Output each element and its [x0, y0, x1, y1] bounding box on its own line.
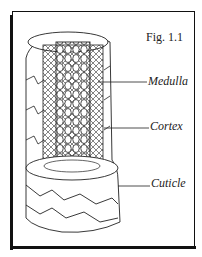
- figure-caption: Fig. 1.1: [146, 30, 183, 45]
- label-cuticle: Cuticle: [151, 176, 186, 191]
- label-medulla: Medulla: [148, 74, 188, 89]
- medulla-core: [56, 42, 90, 164]
- label-cortex: Cortex: [150, 119, 183, 134]
